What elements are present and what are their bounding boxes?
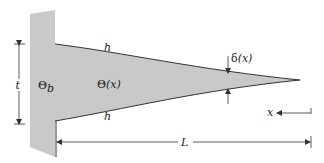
wall-and-fin-body [30,10,300,157]
h-bottom-label: h [104,110,111,123]
h-top-label: h [104,41,111,54]
half-thickness-label: δ(x) [231,52,252,65]
local-temp-label: Θ(x) [97,78,121,91]
fin-diagram: t Θb Θ(x) h h δ(x) x L [0,0,324,163]
coordinate-label: x [267,106,274,119]
length-label: L [180,136,188,149]
thickness-label: t [16,79,21,92]
